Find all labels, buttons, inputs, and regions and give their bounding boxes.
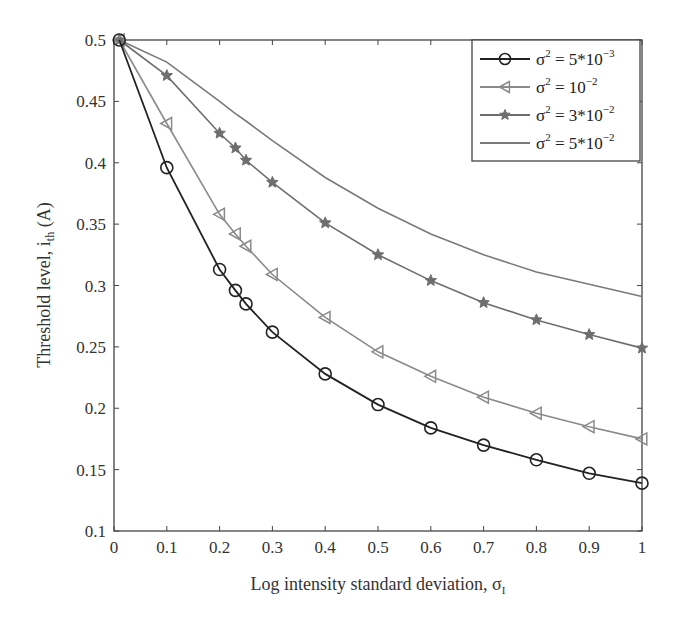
y-tick-label: 0.2 [85,399,106,418]
x-tick-label: 0.4 [315,538,337,557]
y-axis-title-text: Threshold level, i [34,241,54,367]
circle-marker [214,264,226,276]
x-tick-label: 1 [638,538,647,557]
circle-marker [478,439,490,451]
circle-marker [636,477,648,489]
y-axis-title-unit: (A) [34,202,55,232]
circle-marker [372,399,384,411]
x-axis-title-text: Log intensity standard deviation, σ [251,574,502,594]
circle-marker [240,298,252,310]
x-tick-label: 0.9 [579,538,600,557]
y-axis-title-sub: th [43,232,57,241]
x-tick-label: 0.1 [156,538,177,557]
x-tick-label: 0.5 [367,538,388,557]
y-tick-label: 0.4 [85,154,107,173]
y-tick-label: 0.5 [85,31,106,50]
x-axis-title: Log intensity standard deviation, σI [251,574,506,596]
circle-marker [319,368,331,380]
star-marker [372,249,383,260]
line-chart: 00.10.20.30.40.50.60.70.80.91 0.10.150.2… [0,0,680,622]
y-tick-label: 0.15 [76,461,106,480]
circle-marker [500,54,511,65]
star-marker [584,329,595,340]
circle-marker [583,467,595,479]
y-tick-label: 0.25 [76,338,106,357]
y-tick-label: 0.3 [85,277,106,296]
x-axis-title-sub: I [502,584,506,596]
star-marker [531,314,542,325]
star-marker [425,275,436,286]
circle-marker [113,34,125,46]
star-marker [636,342,647,353]
circle-marker [229,284,241,296]
y-axis-title: Threshold level, ith (A) [34,202,57,367]
legend: σ2 = 5*10−3σ2 = 10−2σ2 = 3*10−2σ2 = 5*10… [472,40,640,161]
y-tick-label: 0.35 [76,215,106,234]
circle-marker [425,422,437,434]
x-tick-label: 0.2 [209,538,230,557]
circle-marker [530,454,542,466]
x-tick-label: 0 [110,538,119,557]
star-marker [478,297,489,308]
circle-marker [266,326,278,338]
y-tick-label: 0.1 [85,522,106,541]
x-tick-label: 0.7 [473,538,495,557]
x-tick-label: 0.8 [526,538,547,557]
x-tick-label: 0.3 [262,538,283,557]
circle-marker [161,162,173,174]
x-tick-label: 0.6 [420,538,441,557]
y-tick-label: 0.45 [76,92,106,111]
